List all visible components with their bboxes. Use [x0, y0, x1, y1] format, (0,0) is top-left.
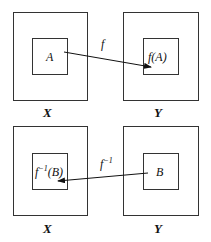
label-f: f: [101, 38, 104, 50]
label-f-a: f(A): [148, 51, 167, 63]
label-y-bottom: Y: [154, 222, 162, 235]
label-y-top: Y: [154, 106, 162, 119]
arrow-f-inverse: [58, 173, 148, 181]
label-b: B: [156, 166, 163, 178]
label-x-bottom: X: [43, 222, 52, 235]
arrow-f: [64, 52, 151, 67]
label-x-top: X: [43, 106, 52, 119]
label-f-inverse: f−1: [100, 157, 113, 170]
diagram-canvas: [0, 0, 211, 242]
label-f-inverse-b: f−1(B): [35, 165, 63, 178]
label-a: A: [46, 51, 53, 63]
